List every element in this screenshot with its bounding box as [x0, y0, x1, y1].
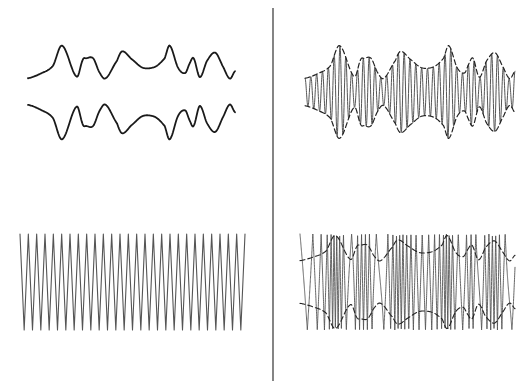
signal-lower-trace	[28, 104, 235, 139]
am-wave-plot	[305, 46, 515, 139]
am-fm-diagram	[0, 0, 526, 381]
fm-carrier-trace	[300, 234, 515, 330]
carrier-trace	[20, 234, 245, 330]
signal-upper-trace	[28, 46, 235, 79]
carrier-wave-plot	[20, 234, 245, 330]
modulating-signal-plot	[28, 46, 235, 140]
diagram-canvas	[0, 0, 526, 381]
fm-wave-plot	[300, 234, 515, 330]
